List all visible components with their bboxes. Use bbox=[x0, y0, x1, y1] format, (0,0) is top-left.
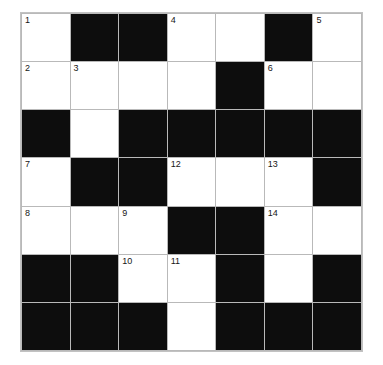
crossword-cell-r5-c5 bbox=[216, 207, 264, 254]
crossword-cell-r4-c2 bbox=[71, 158, 119, 205]
crossword-cell-r2-c1[interactable]: 2 bbox=[22, 62, 70, 109]
crossword-cell-r5-c7[interactable] bbox=[313, 207, 361, 254]
crossword-cell-r7-c2 bbox=[71, 303, 119, 350]
crossword-cell-r4-c3 bbox=[119, 158, 167, 205]
crossword-cell-r6-c5 bbox=[216, 255, 264, 302]
crossword-cell-r7-c4[interactable] bbox=[168, 303, 216, 350]
crossword-cell-r2-c3[interactable] bbox=[119, 62, 167, 109]
crossword-grid[interactable]: 1452367121389141011 bbox=[21, 13, 362, 351]
crossword-cell-r7-c3 bbox=[119, 303, 167, 350]
crossword-cell-r4-c6[interactable]: 13 bbox=[265, 158, 313, 205]
cell-number: 12 bbox=[171, 159, 181, 170]
crossword-cell-r2-c4[interactable] bbox=[168, 62, 216, 109]
crossword-cell-r2-c6[interactable]: 6 bbox=[265, 62, 313, 109]
crossword-puzzle-image: 1452367121389141011 bbox=[0, 0, 383, 365]
crossword-cell-r7-c6 bbox=[265, 303, 313, 350]
cell-number: 5 bbox=[316, 15, 321, 26]
crossword-cell-r3-c1 bbox=[22, 110, 70, 157]
crossword-cell-r1-c2 bbox=[71, 14, 119, 61]
crossword-cell-r6-c7 bbox=[313, 255, 361, 302]
crossword-cell-r4-c1[interactable]: 7 bbox=[22, 158, 70, 205]
cell-number: 8 bbox=[25, 208, 30, 219]
crossword-cell-r1-c5[interactable] bbox=[216, 14, 264, 61]
cell-number: 11 bbox=[171, 256, 180, 267]
crossword-cell-r3-c4 bbox=[168, 110, 216, 157]
crossword-cell-r7-c5 bbox=[216, 303, 264, 350]
crossword-cell-r5-c2[interactable] bbox=[71, 207, 119, 254]
crossword-cell-r3-c6 bbox=[265, 110, 313, 157]
crossword-cell-r6-c6[interactable] bbox=[265, 255, 313, 302]
cell-number: 7 bbox=[25, 159, 30, 170]
cell-number: 9 bbox=[122, 208, 127, 219]
crossword-cell-r6-c1 bbox=[22, 255, 70, 302]
crossword-cell-r2-c2[interactable]: 3 bbox=[71, 62, 119, 109]
crossword-cell-r1-c6 bbox=[265, 14, 313, 61]
cell-number: 2 bbox=[25, 63, 30, 74]
crossword-cell-r2-c5 bbox=[216, 62, 264, 109]
crossword-cell-r7-c7 bbox=[313, 303, 361, 350]
crossword-cell-r3-c7 bbox=[313, 110, 361, 157]
cell-number: 4 bbox=[171, 15, 176, 26]
crossword-cell-r6-c2 bbox=[71, 255, 119, 302]
crossword-cell-r1-c1[interactable]: 1 bbox=[22, 14, 70, 61]
crossword-cell-r1-c3 bbox=[119, 14, 167, 61]
cell-number: 14 bbox=[268, 208, 278, 219]
crossword-cell-r5-c6[interactable]: 14 bbox=[265, 207, 313, 254]
crossword-cell-r6-c3[interactable]: 10 bbox=[119, 255, 167, 302]
crossword-cell-r5-c4 bbox=[168, 207, 216, 254]
crossword-cell-r3-c2[interactable] bbox=[71, 110, 119, 157]
crossword-cell-r6-c4[interactable]: 11 bbox=[168, 255, 216, 302]
crossword-cell-r3-c3 bbox=[119, 110, 167, 157]
crossword-cell-r7-c1 bbox=[22, 303, 70, 350]
crossword-cell-r5-c3[interactable]: 9 bbox=[119, 207, 167, 254]
crossword-cell-r4-c7 bbox=[313, 158, 361, 205]
crossword-cell-r1-c7[interactable]: 5 bbox=[313, 14, 361, 61]
crossword-cell-r4-c4[interactable]: 12 bbox=[168, 158, 216, 205]
crossword-cell-r1-c4[interactable]: 4 bbox=[168, 14, 216, 61]
crossword-cell-r4-c5[interactable] bbox=[216, 158, 264, 205]
crossword-cell-r3-c5 bbox=[216, 110, 264, 157]
crossword-cell-r2-c7[interactable] bbox=[313, 62, 361, 109]
cell-number: 3 bbox=[74, 63, 79, 74]
cell-number: 13 bbox=[268, 159, 278, 170]
cell-number: 10 bbox=[122, 256, 132, 267]
cell-number: 6 bbox=[268, 63, 273, 74]
cell-number: 1 bbox=[25, 15, 30, 26]
crossword-cell-r5-c1[interactable]: 8 bbox=[22, 207, 70, 254]
